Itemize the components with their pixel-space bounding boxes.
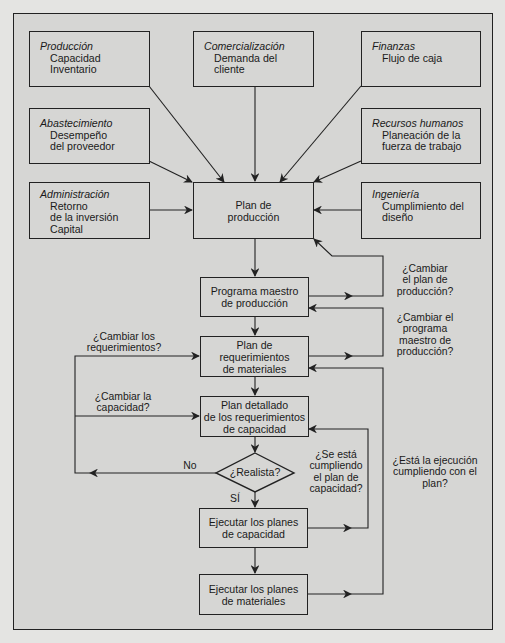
si-label: SÍ	[230, 493, 250, 504]
dept-comercializacion: Comercialización Demanda del cliente	[193, 31, 314, 87]
cambiar-programa-maestro-label: ¿Cambiar el programa maestro de producci…	[388, 312, 462, 358]
dept-line: del proveedor	[50, 141, 149, 153]
ejecutar-capacidad-box: Ejecutar los planes de capacidad	[199, 508, 308, 548]
cambiar-capacidad-label: ¿Cambiar la capacidad?	[88, 391, 158, 414]
dept-title: Ingeniería	[372, 189, 480, 201]
plan-requerimientos-materiales-box: Plan de requerimientos de materiales	[200, 336, 309, 377]
dept-line: Capital	[50, 224, 149, 236]
dept-title: Abastecimiento	[40, 118, 149, 130]
dept-line: diseño	[382, 212, 480, 224]
dept-title: Comercialización	[204, 41, 313, 53]
dept-title: Administración	[40, 189, 149, 201]
dept-line: de la inversión	[50, 212, 149, 224]
no-label: No	[175, 460, 205, 471]
dept-title: Producción	[40, 41, 149, 53]
plan-produccion-box: Plan de producción	[193, 182, 314, 239]
box-text: Ejecutar los planes	[209, 516, 299, 528]
dept-line: fuerza de trabajo	[382, 141, 480, 153]
plan-detallado-capacidad-box: Plan detallado de los requerimientos de …	[200, 396, 309, 437]
dept-ingenieria: Ingeniería Cumplimiento del diseño	[361, 182, 481, 239]
dept-produccion: Producción Capacidad Inventario	[29, 31, 150, 87]
box-text: Plan detallado	[221, 399, 288, 411]
box-text: Ejecutar los planes	[209, 583, 299, 595]
dept-recursos-humanos: Recursos humanos Planeación de la fuerza…	[361, 108, 481, 164]
ejecutar-materiales-box: Ejecutar los planes de materiales	[199, 574, 308, 615]
cambiar-plan-produccion-label: ¿Cambiar el plan de producción?	[390, 263, 460, 297]
dept-line: Flujo de caja	[382, 53, 480, 65]
box-text: Plan de	[236, 199, 272, 211]
dept-line: cliente	[214, 64, 313, 76]
box-text: de los requerimientos	[204, 411, 305, 423]
ejecucion-cumpliendo-plan-label: ¿Está la ejecución cumpliendo con el pla…	[385, 455, 485, 489]
cambiar-requerimientos-label: ¿Cambiar los requerimientos?	[78, 331, 170, 354]
cumpliendo-plan-capacidad-label: ¿Se está cumpliendo el plan de capacidad…	[307, 449, 365, 495]
dept-finanzas: Finanzas Flujo de caja	[361, 31, 481, 87]
dept-line: Inventario	[50, 64, 149, 76]
box-text: Plan de	[237, 339, 273, 351]
box-text: de capacidad	[222, 528, 285, 540]
dept-title: Recursos humanos	[372, 118, 480, 130]
box-text: de materiales	[223, 363, 287, 375]
box-text: Programa maestro	[211, 285, 299, 297]
box-text: de materiales	[222, 595, 286, 607]
dept-title: Finanzas	[372, 41, 480, 53]
dept-abastecimiento: Abastecimiento Desempeño del proveedor	[29, 108, 150, 164]
box-text: requerimientos	[219, 351, 289, 363]
box-text: de producción	[221, 297, 288, 309]
box-text: producción	[228, 211, 280, 223]
dept-administracion: Administración Retorno de la inversión C…	[29, 182, 150, 239]
box-text: de capacidad	[223, 423, 286, 435]
programa-maestro-box: Programa maestro de producción	[200, 277, 309, 317]
realista-decision: ¿Realista?	[220, 467, 290, 478]
